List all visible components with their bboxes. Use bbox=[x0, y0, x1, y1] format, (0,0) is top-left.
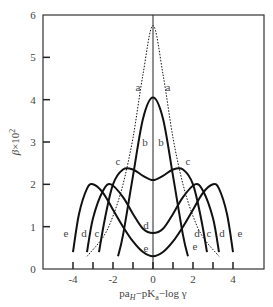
curve-label-d: d bbox=[81, 227, 87, 239]
curve-label-e: e bbox=[238, 227, 243, 239]
curve-label-a: a bbox=[166, 81, 171, 93]
y-tick-label: 2 bbox=[30, 178, 36, 190]
curve-label-b: b bbox=[158, 136, 164, 148]
y-tick-label: 3 bbox=[30, 136, 36, 148]
y-axis: 0123456 bbox=[30, 9, 50, 275]
x-axis: -4-2024 bbox=[68, 262, 236, 285]
curve-label-e: e bbox=[64, 227, 69, 239]
curve-label-c: c bbox=[95, 227, 100, 239]
x-tick-label: -4 bbox=[68, 273, 78, 285]
x-tick-label: 4 bbox=[230, 273, 236, 285]
y-axis-title: β×102 bbox=[8, 129, 21, 157]
y-tick-label: 6 bbox=[30, 9, 36, 21]
y-tick-label: 1 bbox=[30, 221, 36, 233]
curve-label-b: b bbox=[142, 136, 148, 148]
curve-label-d: d bbox=[194, 227, 200, 239]
x-tick-label: 0 bbox=[150, 273, 156, 285]
curve-label-e: e bbox=[193, 240, 198, 252]
y-tick-label: 5 bbox=[30, 51, 36, 63]
curve-label-d: d bbox=[219, 227, 225, 239]
y-tick-label: 0 bbox=[30, 263, 36, 275]
chart: 0123456 -4-2024 aabbccddeecdecde paH−pKa… bbox=[0, 0, 273, 307]
x-axis-title: paH−pKa−log γ bbox=[119, 287, 186, 302]
curve-label-c: c bbox=[116, 155, 121, 167]
curve-label-c: c bbox=[186, 155, 191, 167]
curve-label-d: d bbox=[143, 219, 149, 231]
curve-label-c: c bbox=[207, 227, 212, 239]
x-tick-label: 2 bbox=[190, 273, 196, 285]
curve-label-e: e bbox=[144, 242, 149, 254]
y-tick-label: 4 bbox=[30, 94, 36, 106]
curve-label-a: a bbox=[136, 81, 141, 93]
x-tick-label: -2 bbox=[108, 273, 117, 285]
